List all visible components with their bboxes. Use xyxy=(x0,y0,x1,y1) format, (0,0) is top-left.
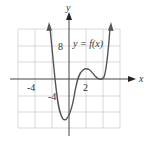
curve-arrow-right-icon xyxy=(108,22,114,31)
x-axis-label: x xyxy=(138,73,144,84)
curve-arrow-left-icon xyxy=(47,22,53,31)
function-label: y = f(x) xyxy=(72,38,104,50)
function-graph: y x 8 -4 -4 2 y = f(x) xyxy=(0,0,153,144)
axes xyxy=(10,17,131,136)
x-tick-label-neg4: -4 xyxy=(27,82,35,93)
y-axis-label: y xyxy=(65,2,71,13)
y-tick-label-neg4: -4 xyxy=(48,91,56,102)
y-tick-label-8: 8 xyxy=(58,41,63,52)
y-axis-arrow-icon xyxy=(66,12,72,20)
x-axis-arrow-icon xyxy=(128,76,136,82)
x-tick-label-2: 2 xyxy=(83,82,88,93)
